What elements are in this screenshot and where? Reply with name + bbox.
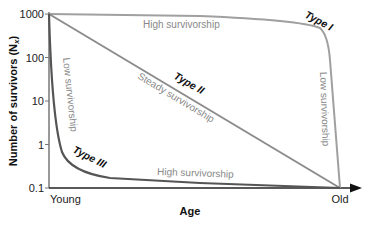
- survivorship-chart: 1000 100 10 1 0.1 Young Old Age Number o…: [0, 0, 371, 225]
- annot-type3-low: Low survivorship: [61, 57, 80, 133]
- annot-type1-low: Low survivorship: [318, 72, 332, 147]
- annot-type1-high: High survivorship: [143, 19, 220, 30]
- y-tick-10: 10: [32, 95, 44, 107]
- x-axis-title: Age: [180, 205, 201, 217]
- y-tick-1000: 1000: [20, 8, 44, 20]
- type-3-label: Type III: [71, 143, 109, 170]
- y-ticks: 1000 100 10 1 0.1: [20, 8, 49, 194]
- y-axis-title: Number of survivors (Nx): [7, 35, 21, 166]
- x-axis-arrow-icon: [350, 184, 362, 193]
- x-tick-young: Young: [50, 193, 81, 205]
- y-tick-0-1: 0.1: [29, 182, 44, 194]
- y-tick-1: 1: [38, 139, 44, 151]
- y-tick-100: 100: [26, 52, 44, 64]
- type-1-label: Type I: [303, 8, 336, 33]
- annot-type3-high: High survivorship: [157, 166, 234, 180]
- x-tick-old: Old: [331, 193, 348, 205]
